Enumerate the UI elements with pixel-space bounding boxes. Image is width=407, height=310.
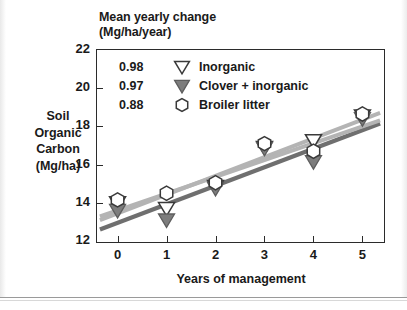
chart-legend: 0.98Inorganic0.97Clover + inorganic0.88B…: [119, 58, 308, 113]
x-tick-label: 0: [106, 247, 130, 262]
marker-triangle-down-filled: [159, 214, 175, 227]
page-edge-shading-left: [0, 0, 6, 297]
legend-value-2: 0.97: [119, 79, 165, 93]
legend-title-line2: (Mg/ha/year): [99, 25, 171, 40]
marker-hexagon-open: [111, 193, 123, 207]
marker-hexagon-open: [160, 186, 172, 200]
figure: Mean yearly change (Mg/ha/year) Soil Org…: [0, 0, 407, 310]
legend-value-3: 0.88: [119, 98, 165, 112]
y-tick-label: 22: [60, 41, 90, 56]
x-tick-label: 2: [204, 247, 228, 262]
series-3-markers: [111, 107, 368, 207]
trend-line-2: [100, 124, 380, 230]
marker-hexagon-open: [258, 137, 270, 151]
marker-hexagon-open: [307, 144, 319, 158]
y-tick-label: 20: [60, 79, 90, 94]
legend-marker-triangle-down-filled-icon: [165, 77, 199, 94]
legend-marker-triangle-down-open-icon: [165, 58, 199, 75]
legend-title-line1: Mean yearly change: [99, 10, 216, 25]
x-tick-label: 5: [350, 247, 374, 262]
legend-label-2: Clover + inorganic: [199, 79, 308, 93]
legend-value-1: 0.98: [119, 60, 165, 74]
plot-area: 121416182022 012345 0.98Inorganic0.97Clo…: [96, 49, 385, 243]
legend-label-1: Inorganic: [199, 60, 308, 74]
trend-line-3: [100, 120, 380, 216]
y-tick-label: 14: [60, 194, 90, 209]
legend-marker-hexagon-open-icon: [165, 96, 199, 113]
legend-label-3: Broiler litter: [199, 98, 308, 112]
x-tick-label: 4: [301, 247, 325, 262]
marker-hexagon-open: [209, 176, 221, 190]
y-tick-label: 12: [60, 232, 90, 247]
x-tick-label: 3: [252, 247, 276, 262]
page-rule-secondary: [0, 300, 407, 301]
x-axis-label: Years of management: [96, 272, 386, 286]
page-edge-shading-right: [401, 0, 407, 297]
marker-hexagon-open: [356, 107, 368, 121]
y-tick-label: 18: [60, 117, 90, 132]
page-rule: [0, 297, 407, 298]
y-tick-label: 16: [60, 156, 90, 171]
x-tick-label: 1: [155, 247, 179, 262]
